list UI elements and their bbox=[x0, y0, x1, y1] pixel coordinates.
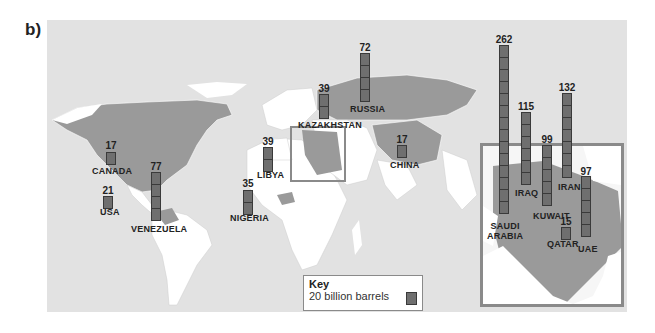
country-label-saudi-arabia: SAUDI ARABIA bbox=[487, 221, 523, 241]
bar-iraq bbox=[521, 113, 531, 185]
country-label-qatar: QATAR bbox=[547, 239, 579, 249]
locator-box-middle-east bbox=[290, 126, 346, 182]
bar-libya bbox=[263, 148, 273, 172]
value-label-russia: 72 bbox=[350, 42, 380, 53]
country-label-venezuela: VENEZUELA bbox=[131, 224, 187, 234]
bar-nigeria bbox=[243, 191, 253, 215]
country-label-china: CHINA bbox=[390, 160, 420, 170]
key-swatch bbox=[406, 292, 417, 305]
value-label-canada: 17 bbox=[96, 140, 126, 151]
bar-block bbox=[319, 106, 329, 119]
bar-kuwait bbox=[542, 146, 552, 206]
value-label-kuwait: 99 bbox=[532, 134, 562, 145]
bar-block bbox=[360, 89, 370, 102]
world-map: 17 CANADA 21 USA 77 VENEZUELA 35 NIGERIA… bbox=[47, 20, 627, 312]
country-label-kazakhstan: KAZAKHSTAN bbox=[298, 120, 362, 130]
value-label-libya: 39 bbox=[253, 136, 283, 147]
value-label-venezuela: 77 bbox=[141, 161, 171, 172]
bar-russia bbox=[360, 54, 370, 102]
country-label-uae: UAE bbox=[578, 244, 598, 254]
bar-block bbox=[581, 224, 591, 237]
bar-china bbox=[397, 146, 407, 158]
key-title: Key bbox=[309, 278, 417, 290]
country-label-russia: RUSSIA bbox=[350, 104, 385, 114]
value-label-china: 17 bbox=[387, 134, 417, 145]
bar-venezuela bbox=[151, 173, 161, 221]
value-label-qatar: 15 bbox=[551, 216, 581, 227]
value-label-usa: 21 bbox=[93, 185, 123, 196]
country-label-nigeria: NIGERIA bbox=[230, 213, 269, 223]
bar-uae bbox=[581, 177, 591, 237]
country-label-canada: CANADA bbox=[92, 166, 132, 176]
country-label-iraq: IRAQ bbox=[515, 188, 538, 198]
bar-block bbox=[151, 208, 161, 221]
bar-block bbox=[397, 145, 407, 158]
country-label-libya: LIBYA bbox=[257, 170, 284, 180]
bar-kazakhstan bbox=[319, 95, 329, 119]
bar-block bbox=[542, 193, 552, 206]
bar-canada bbox=[106, 153, 116, 165]
bar-block bbox=[499, 201, 509, 214]
value-label-iran: 132 bbox=[552, 82, 582, 93]
bar-block bbox=[106, 152, 116, 165]
country-label-iran: IRAN bbox=[558, 182, 581, 192]
bar-saudi-arabia bbox=[499, 46, 509, 214]
key-unit-label: 20 billion barrels bbox=[309, 290, 417, 302]
panel-label: b) bbox=[25, 20, 41, 40]
bar-block bbox=[521, 172, 531, 185]
legend-key: Key 20 billion barrels bbox=[303, 275, 423, 311]
value-label-kazakhstan: 39 bbox=[309, 83, 339, 94]
value-label-saudi-arabia: 262 bbox=[489, 34, 519, 45]
value-label-iraq: 115 bbox=[511, 101, 541, 112]
country-label-usa: USA bbox=[100, 207, 120, 217]
